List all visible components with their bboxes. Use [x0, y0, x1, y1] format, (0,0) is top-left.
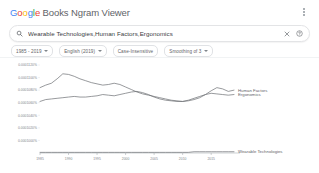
- help-circle-icon[interactable]: [296, 30, 303, 37]
- y-axis-tick-label: 0.0001040%: [18, 114, 37, 118]
- chip-corpus-label: English (2019): [64, 49, 95, 54]
- chevron-down-icon: [98, 50, 102, 52]
- x-axis-tick-label: 2000: [122, 157, 130, 161]
- series-label-2: Wearable Technologies: [238, 149, 283, 154]
- kebab-dot-3: [303, 14, 305, 16]
- chip-smoothing[interactable]: Smoothing of 3: [164, 45, 213, 57]
- chip-year-range[interactable]: 1985 - 2019: [11, 45, 53, 57]
- x-axis-tick-label: 2010: [179, 157, 187, 161]
- y-axis-tick-label: 0.0001060%: [18, 101, 37, 105]
- search-input[interactable]: Wearable Technologies,Human Factors,Ergo…: [28, 30, 284, 37]
- page-title: Google Books Ngram Viewer: [10, 7, 130, 18]
- kebab-dot-2: [303, 11, 305, 13]
- y-axis-tick-label: 0.0001120%: [18, 63, 37, 67]
- chevron-down-icon: [204, 50, 208, 52]
- chip-case-insensitive-label: Case-Insensitive: [118, 49, 154, 54]
- series-label-1: Ergonomics: [238, 92, 261, 97]
- title-rest: Books Ngram Viewer: [40, 7, 130, 18]
- ngram-chart[interactable]: 0.0001120%0.0001100%0.0001080%0.0001060%…: [0, 59, 319, 172]
- x-axis-tick-label: 2005: [150, 157, 158, 161]
- kebab-menu-icon[interactable]: [297, 4, 311, 20]
- kebab-dot-1: [303, 8, 305, 10]
- x-axis-tick-label: 2015: [207, 157, 215, 161]
- series-line-1[interactable]: [40, 91, 234, 101]
- chip-case-insensitive[interactable]: Case-Insensitive: [113, 45, 159, 57]
- close-icon[interactable]: [284, 31, 290, 37]
- toolbar-divider: [0, 57, 319, 58]
- app-header: Google Books Ngram Viewer: [0, 0, 319, 24]
- series-line-2[interactable]: [40, 152, 234, 153]
- search-icon: [16, 30, 23, 37]
- y-axis-tick-label: 0.0001080%: [18, 88, 37, 92]
- chevron-down-icon: [44, 50, 48, 52]
- x-axis-tick-label: 1985: [36, 157, 44, 161]
- x-axis-tick-label: 1995: [93, 157, 101, 161]
- y-axis-tick-label: 0.0001100%: [18, 76, 37, 80]
- chip-year-range-label: 1985 - 2019: [16, 49, 42, 54]
- x-axis-tick-label: 1990: [65, 157, 73, 161]
- chip-smoothing-label: Smoothing of 3: [169, 49, 201, 54]
- filter-chip-row: 1985 - 2019 English (2019) Case-Insensit…: [0, 42, 319, 55]
- y-axis-tick-label: 0.0001020%: [18, 126, 37, 130]
- y-axis-tick-label: 0.0001000%: [18, 139, 37, 143]
- search-bar[interactable]: Wearable Technologies,Human Factors,Ergo…: [9, 25, 310, 42]
- ngram-chart-svg[interactable]: 0.0001120%0.0001100%0.0001080%0.0001060%…: [0, 59, 319, 172]
- chip-corpus[interactable]: English (2019): [59, 45, 107, 57]
